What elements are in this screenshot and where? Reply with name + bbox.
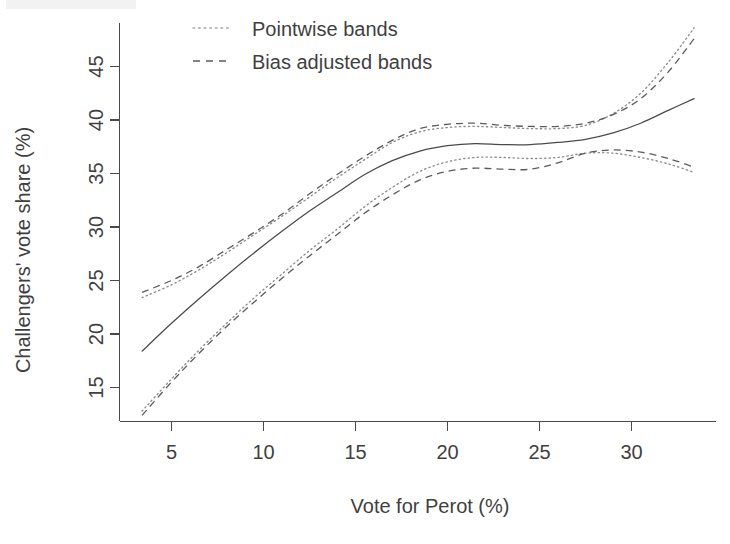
x-tick-label-25: 25 (528, 441, 550, 463)
x-tick-label-20: 20 (436, 441, 458, 463)
plot-canvas: 45 40 35 30 25 20 15 5 10 15 20 25 30 Vo… (0, 0, 730, 544)
legend-label-bias: Bias adjusted bands (252, 51, 432, 73)
chart-figure: 45 40 35 30 25 20 15 5 10 15 20 25 30 Vo… (0, 0, 730, 544)
y-axis-title: Challengers' vote share (%) (12, 127, 34, 373)
chart-legend: Pointwise bands Bias adjusted bands (193, 18, 432, 73)
y-tick-label-20: 20 (85, 323, 107, 345)
y-axis (110, 23, 120, 421)
legend-label-pointwise: Pointwise bands (252, 18, 398, 40)
y-tick-label-15: 15 (85, 376, 107, 398)
x-tick-label-5: 5 (166, 441, 177, 463)
fitted-curve (142, 99, 694, 352)
x-tick-label-30: 30 (620, 441, 642, 463)
data-curves (142, 28, 694, 415)
bias-band-upper (142, 39, 694, 293)
x-axis-title: Vote for Perot (%) (351, 495, 510, 517)
y-tick-label-45: 45 (85, 55, 107, 77)
x-tick-label-10: 10 (252, 441, 274, 463)
x-tick-labels: 5 10 15 20 25 30 (166, 441, 643, 463)
y-tick-labels: 45 40 35 30 25 20 15 (85, 55, 107, 398)
y-tick-label-30: 30 (85, 216, 107, 238)
x-tick-label-15: 15 (344, 441, 366, 463)
y-tick-label-40: 40 (85, 109, 107, 131)
bias-band-lower (142, 150, 694, 415)
y-tick-label-25: 25 (85, 269, 107, 291)
x-axis (120, 422, 717, 432)
y-tick-label-35: 35 (85, 162, 107, 184)
pointwise-band-lower (142, 153, 694, 411)
